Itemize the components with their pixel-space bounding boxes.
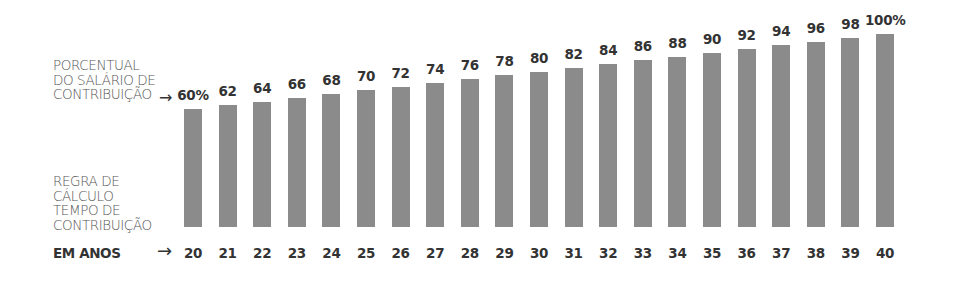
bar: [530, 72, 548, 228]
rule-label-line: CÁLCULO: [53, 189, 152, 204]
bar: [807, 42, 825, 228]
bar: [461, 79, 479, 227]
bar: [634, 60, 652, 227]
year-tick-label: 40: [868, 245, 902, 261]
year-tick-label: 32: [591, 245, 625, 261]
bar-value-label: 100%: [865, 12, 905, 28]
percent-label-line: DO SALÁRIO DE: [53, 73, 155, 88]
year-tick-label: 24: [314, 245, 348, 261]
bar: [703, 53, 721, 227]
bar: [253, 102, 271, 228]
percent-axis-label: PORCENTUAL DO SALÁRIO DE CONTRIBUIÇÃO: [53, 58, 155, 102]
year-tick-label: 20: [176, 245, 210, 261]
bar: [357, 90, 375, 227]
rule-label-line: CONTRIBUIÇÃO: [53, 218, 152, 233]
year-tick-label: 28: [453, 245, 487, 261]
bar: [184, 109, 202, 227]
year-tick-label: 21: [211, 245, 245, 261]
rule-label: REGRA DE CÁLCULO TEMPO DE CONTRIBUIÇÃO: [53, 174, 152, 232]
year-tick-label: 26: [384, 245, 418, 261]
year-tick-label: 25: [349, 245, 383, 261]
bar: [426, 83, 444, 227]
year-tick-label: 39: [833, 245, 867, 261]
rule-label-line: REGRA DE: [53, 174, 152, 189]
year-tick-label: 37: [764, 245, 798, 261]
year-tick-label: 23: [280, 245, 314, 261]
bar: [288, 98, 306, 227]
rule-label-line: TEMPO DE: [53, 203, 152, 218]
bar: [565, 68, 583, 227]
arrow-right-icon: →: [157, 240, 172, 261]
bar: [495, 75, 513, 227]
year-tick-label: 35: [695, 245, 729, 261]
year-tick-label: 22: [245, 245, 279, 261]
year-tick-label: 27: [418, 245, 452, 261]
bar: [668, 57, 686, 228]
year-tick-label: 30: [522, 245, 556, 261]
year-tick-label: 31: [557, 245, 591, 261]
year-tick-label: 33: [626, 245, 660, 261]
bar: [322, 94, 340, 227]
bar: [392, 87, 410, 228]
bar: [219, 105, 237, 227]
year-tick-label: 34: [660, 245, 694, 261]
bar: [738, 49, 756, 227]
bar: [876, 34, 894, 227]
year-tick-label: 29: [487, 245, 521, 261]
bar: [599, 64, 617, 227]
years-axis-title: EM ANOS: [53, 245, 121, 261]
arrow-right-icon: →: [159, 88, 172, 107]
year-tick-label: 38: [799, 245, 833, 261]
bar: [841, 38, 859, 227]
year-tick-label: 36: [730, 245, 764, 261]
percent-label-line: PORCENTUAL: [53, 58, 155, 73]
percent-label-line: CONTRIBUIÇÃO: [53, 87, 155, 102]
bar: [772, 45, 790, 227]
